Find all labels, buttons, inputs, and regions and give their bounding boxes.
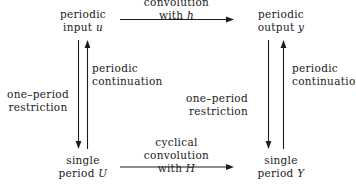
edge-label-cyclical-line2: convolution bbox=[120, 149, 233, 162]
edge-label-left-periodic-continuation: periodic continuation bbox=[92, 62, 184, 88]
node-single-period-input-symbol: U bbox=[98, 167, 107, 179]
node-single-period-output-line1: single bbox=[238, 154, 324, 167]
edge-label-cyclical-line3-text: with bbox=[158, 162, 186, 174]
commutative-diagram: periodic input u periodic output y singl… bbox=[0, 0, 356, 188]
node-periodic-input-line2: input u bbox=[40, 21, 126, 34]
edge-label-right-continuation-line2: continuation bbox=[292, 75, 356, 88]
edge-label-right-continuation-line1: periodic bbox=[292, 62, 356, 75]
node-single-period-output: single period Y bbox=[238, 154, 324, 180]
node-periodic-output-line1: periodic bbox=[238, 8, 324, 21]
node-periodic-output-line2-text: output bbox=[258, 21, 298, 33]
edge-label-cyclical-convolution-with-H: cyclical convolution with H bbox=[120, 136, 233, 175]
edge-label-right-restriction-line2: restriction bbox=[148, 105, 248, 118]
edge-label-cyclical-symbol: H bbox=[186, 162, 195, 174]
edge-label-cyclical-line3: with H bbox=[120, 162, 233, 175]
edge-label-convolution-line2: with h bbox=[120, 9, 233, 22]
node-periodic-input-symbol: u bbox=[96, 21, 103, 33]
node-single-period-output-symbol: Y bbox=[297, 167, 304, 179]
node-single-period-input: single period U bbox=[40, 154, 126, 180]
edge-label-convolution-with-h: convolution with h bbox=[120, 0, 233, 22]
node-single-period-input-line2-text: period bbox=[59, 167, 99, 179]
edge-label-left-continuation-line1: periodic bbox=[92, 62, 184, 75]
edge-label-left-restriction-line1: one–period bbox=[2, 88, 74, 101]
arrow-right-down bbox=[266, 40, 272, 149]
node-single-period-output-line2: period Y bbox=[238, 167, 324, 180]
arrow-right-up bbox=[281, 40, 287, 149]
edge-label-cyclical-line1: cyclical bbox=[120, 136, 233, 149]
arrow-left-up bbox=[85, 40, 91, 149]
node-periodic-input-line1: periodic bbox=[40, 8, 126, 21]
edge-label-left-restriction-line2: restriction bbox=[2, 101, 74, 114]
node-periodic-output-line2: output y bbox=[238, 21, 324, 34]
node-periodic-output-symbol: y bbox=[298, 21, 304, 33]
node-single-period-output-line2-text: period bbox=[257, 167, 297, 179]
node-periodic-input-line2-text: input bbox=[63, 21, 96, 33]
edge-label-left-one-period-restriction: one–period restriction bbox=[2, 88, 74, 114]
edge-label-left-continuation-line2: continuation bbox=[92, 75, 184, 88]
edge-label-convolution-line1: convolution bbox=[120, 0, 233, 9]
node-single-period-input-line2: period U bbox=[40, 167, 126, 180]
edge-label-convolution-line2-text: with bbox=[159, 9, 187, 21]
node-periodic-input: periodic input u bbox=[40, 8, 126, 34]
node-periodic-output: periodic output y bbox=[238, 8, 324, 34]
edge-label-convolution-symbol: h bbox=[187, 9, 194, 21]
edge-label-right-one-period-restriction: one–period restriction bbox=[148, 92, 248, 118]
arrow-left-down bbox=[76, 40, 82, 149]
edge-label-right-restriction-line1: one–period bbox=[148, 92, 248, 105]
node-single-period-input-line1: single bbox=[40, 154, 126, 167]
edge-label-right-periodic-continuation: periodic continuation bbox=[292, 62, 356, 88]
